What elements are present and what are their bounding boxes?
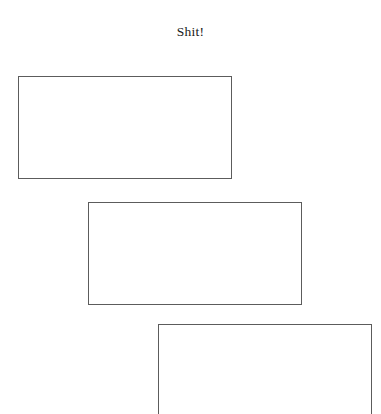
placeholder-frame-1[interactable] [18,76,232,179]
placeholder-frame-3[interactable] [158,324,372,414]
page-title: Shit! [0,24,381,40]
placeholder-frame-2[interactable] [88,202,302,305]
page-canvas: Shit! [0,0,381,414]
